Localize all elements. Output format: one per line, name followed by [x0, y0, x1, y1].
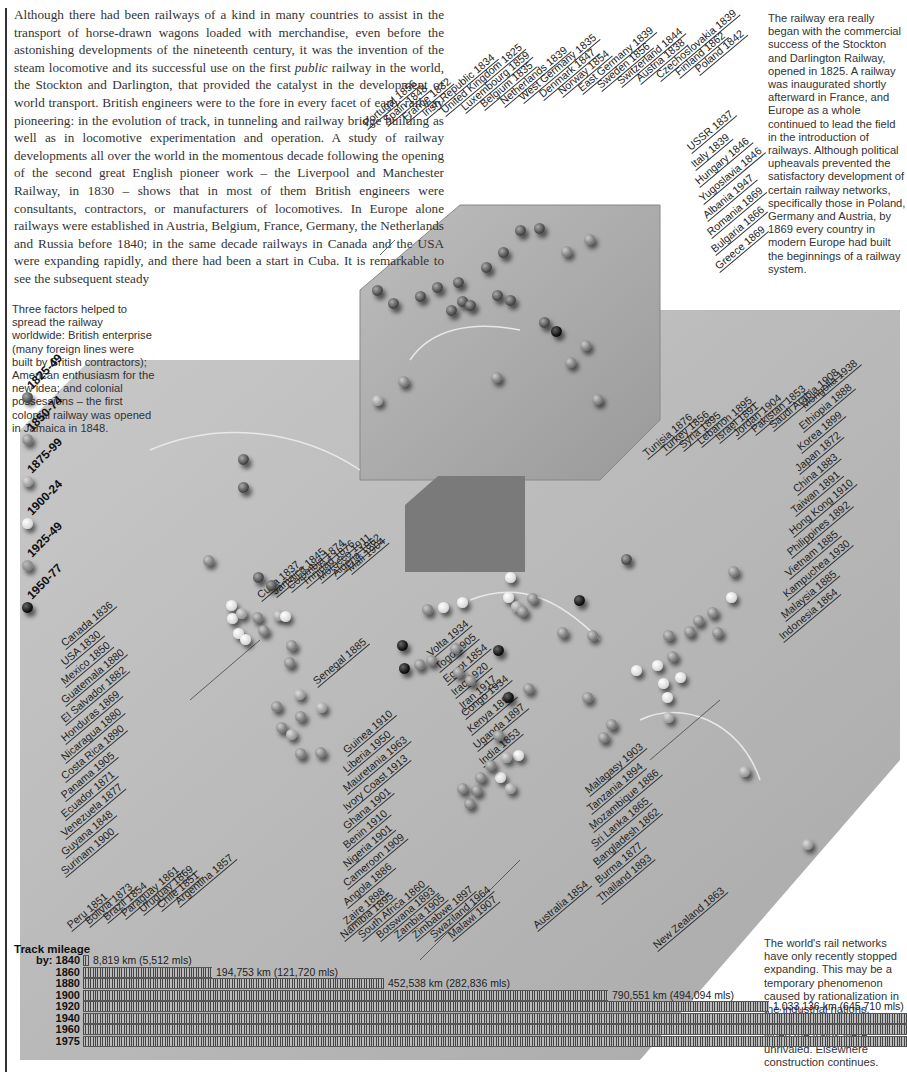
railway-pin-icon	[372, 285, 383, 296]
railway-pin-icon	[587, 630, 598, 641]
railway-pin-icon	[693, 615, 704, 626]
mileage-value: 194,753 km (121,720 mls)	[212, 967, 338, 979]
railway-pin-icon	[465, 675, 476, 686]
intro-emphasis: public	[295, 60, 328, 75]
railway-pin-icon	[238, 482, 249, 493]
railway-pin-icon	[495, 772, 506, 783]
railway-pin-icon	[253, 572, 264, 583]
railway-pin-icon	[726, 592, 737, 603]
railway-pin-icon	[534, 223, 545, 234]
railway-pin-icon	[675, 672, 686, 683]
railway-pin-icon	[397, 640, 408, 651]
railway-pin-icon	[802, 839, 813, 850]
mileage-bar	[83, 1036, 907, 1047]
railway-pin-icon	[551, 326, 562, 337]
railway-pin-icon	[485, 760, 496, 771]
railway-pin-icon	[372, 395, 383, 406]
railway-pin-icon	[527, 593, 538, 604]
railway-pin-icon	[398, 376, 409, 387]
intro-text-2: railway in the world, the Stockton and D…	[14, 60, 444, 286]
railway-pin-icon	[258, 625, 269, 636]
mileage-year: 1880	[14, 978, 83, 990]
railway-pin-icon	[295, 711, 306, 722]
railway-pin-icon	[606, 719, 617, 730]
mileage-row: 19201,033,136 km (645,710 mls)	[14, 1001, 907, 1013]
railway-pin-icon	[523, 683, 534, 694]
railway-pin-icon	[712, 627, 723, 638]
railway-pin-icon	[501, 752, 512, 763]
railway-pin-icon	[432, 282, 443, 293]
railway-pin-icon	[592, 394, 603, 405]
railway-pin-icon	[631, 665, 642, 676]
mileage-bar	[83, 1001, 769, 1012]
railway-pin-icon	[240, 634, 251, 645]
margin-rule	[5, 8, 7, 1072]
railway-pin-icon	[561, 246, 572, 257]
mileage-bar	[83, 1024, 907, 1035]
railway-pin-icon	[707, 607, 718, 618]
railway-pin-icon	[739, 766, 750, 777]
railway-pin-icon	[517, 606, 528, 617]
railway-pin-icon	[315, 747, 326, 758]
railway-pin-icon	[286, 729, 297, 740]
railway-pin-icon	[453, 277, 464, 288]
railway-pin-icon	[203, 555, 214, 566]
railway-pin-icon	[426, 655, 437, 666]
railway-pin-icon	[226, 600, 237, 611]
railway-pin-icon	[684, 626, 695, 637]
mileage-row: 19401,255,876 km (784,922 mls)	[14, 1013, 907, 1025]
railway-pin-icon	[286, 640, 297, 651]
railway-pin-icon	[284, 657, 295, 668]
railway-pin-icon	[471, 785, 482, 796]
railway-pin-icon	[621, 554, 632, 565]
mileage-value: 452,538 km (282,836 mls)	[384, 978, 510, 990]
railway-pin-icon	[505, 295, 516, 306]
railway-pin-icon	[582, 692, 593, 703]
railway-pin-icon	[457, 783, 468, 794]
railway-pin-icon	[491, 372, 502, 383]
railway-pin-icon	[271, 701, 282, 712]
railway-pin-icon	[728, 566, 739, 577]
railway-pin-icon	[652, 660, 663, 671]
legend-pin-icon	[22, 518, 33, 529]
railway-pin-icon	[238, 454, 249, 465]
mileage-bar	[83, 990, 608, 1001]
railway-pin-icon	[574, 595, 585, 606]
railway-pin-icon	[446, 305, 457, 316]
railway-pin-icon	[465, 300, 476, 311]
railway-pin-icon	[481, 262, 492, 273]
legend-pin-icon	[22, 602, 33, 613]
railway-pin-icon	[252, 612, 263, 623]
railway-pin-icon	[493, 645, 504, 656]
railway-world-map: Although there had been railways of a ki…	[0, 0, 907, 1072]
mileage-bar	[83, 978, 384, 989]
railway-pin-icon	[464, 798, 475, 809]
railway-pin-icon	[414, 659, 425, 670]
railway-pin-icon	[498, 247, 509, 258]
mileage-year: 1960	[14, 1024, 83, 1036]
railway-pin-icon	[658, 678, 669, 689]
railway-pin-icon	[450, 643, 461, 654]
railway-pin-icon	[663, 630, 674, 641]
railway-pin-icon	[662, 692, 673, 703]
mileage-bar	[83, 1013, 907, 1024]
legend-pin-icon	[22, 434, 33, 445]
railway-pin-icon	[539, 317, 550, 328]
legend-pin-icon	[22, 476, 33, 487]
legend-pin-icon	[22, 560, 33, 571]
railway-pin-icon	[598, 732, 609, 743]
railway-pin-icon	[399, 663, 410, 674]
railway-pin-icon	[294, 689, 305, 700]
railway-pin-icon	[513, 750, 524, 761]
railway-pin-icon	[316, 702, 327, 713]
mileage-value: 8,819 km (5,512 mls)	[89, 955, 192, 967]
track-mileage-chart: Track mileage by: 18408,819 km (5,512 ml…	[14, 943, 907, 1047]
legend-pin-icon	[22, 392, 33, 403]
railway-pin-icon	[505, 572, 516, 583]
railway-pin-icon	[422, 604, 433, 615]
railway-pin-icon	[565, 357, 576, 368]
railway-pin-icon	[493, 730, 504, 741]
railway-pin-icon	[503, 692, 514, 703]
railway-pin-icon	[295, 748, 306, 759]
mileage-row: 19751,418,228 km (886,392 mls)	[14, 1036, 907, 1048]
